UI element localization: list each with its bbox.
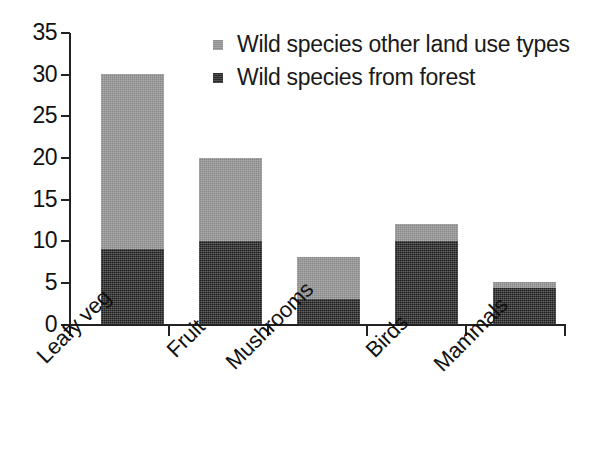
legend-item-other-land-use[interactable]: Wild species other land use types	[213, 28, 570, 61]
bar-birds[interactable]	[395, 224, 458, 324]
chart-legend: Wild species other land use types Wild s…	[213, 28, 570, 94]
y-axis-label-25: 25	[3, 104, 57, 127]
bar-leafy-veg[interactable]	[101, 74, 164, 324]
bar-segment-forest[interactable]	[101, 249, 164, 324]
y-axis-label-20: 20	[3, 146, 57, 169]
y-axis-label-30: 30	[3, 63, 57, 86]
x-tick-5	[564, 326, 566, 336]
legend-label-other-land-use: Wild species other land use types	[237, 33, 570, 56]
bar-segment-forest[interactable]	[199, 241, 262, 324]
stacked-bar-chart: 35 30 25 20 15 10 5 0	[0, 0, 594, 458]
bar-fruit[interactable]	[199, 158, 262, 324]
y-axis-label-5: 5	[3, 271, 57, 294]
bar-segment-other-land-use[interactable]	[395, 224, 458, 241]
y-axis-label-15: 15	[3, 188, 57, 211]
bar-segment-other-land-use[interactable]	[101, 74, 164, 249]
legend-label-forest: Wild species from forest	[237, 66, 475, 89]
y-axis-label-35: 35	[3, 21, 57, 44]
legend-swatch-icon-light	[213, 40, 223, 50]
legend-item-forest[interactable]: Wild species from forest	[213, 61, 570, 94]
x-tick-3	[366, 326, 368, 336]
legend-swatch-icon-dark	[213, 73, 223, 83]
bar-segment-other-land-use[interactable]	[199, 158, 262, 241]
y-axis-label-10: 10	[3, 229, 57, 252]
bar-segment-forest[interactable]	[395, 241, 458, 324]
